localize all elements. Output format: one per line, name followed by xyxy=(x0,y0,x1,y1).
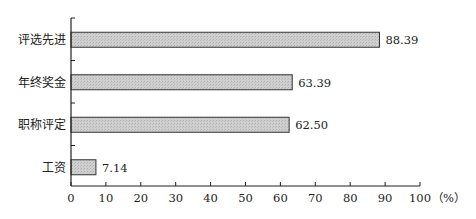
bar-item: 年终奖金63.39 xyxy=(18,75,331,90)
bar xyxy=(71,75,292,90)
x-tick-label: 50 xyxy=(238,191,253,205)
bar xyxy=(71,32,379,47)
x-tick-label: 90 xyxy=(378,191,393,205)
value-label: 88.39 xyxy=(385,33,418,47)
category-label: 评选先进 xyxy=(18,33,66,47)
bar xyxy=(71,117,289,132)
bar-item: 职称评定62.50 xyxy=(18,117,328,132)
x-tick-label: 40 xyxy=(203,191,218,205)
value-label: 62.50 xyxy=(295,118,328,132)
x-tick-label: 100 xyxy=(409,191,431,205)
value-label: 63.39 xyxy=(298,76,331,90)
x-unit-label: （%） xyxy=(432,191,465,205)
x-tick-label: 30 xyxy=(168,191,183,205)
bar-item: 工资7.14 xyxy=(42,160,128,175)
bars-group: 评选先进88.39年终奖金63.39职称评定62.50工资7.14 xyxy=(18,32,418,175)
x-tick-label: 10 xyxy=(99,191,114,205)
x-tick-label: 80 xyxy=(343,191,358,205)
category-label: 职称评定 xyxy=(18,117,66,132)
x-tick-label: 20 xyxy=(133,191,148,205)
category-label: 年终奖金 xyxy=(18,75,66,90)
bar xyxy=(71,160,96,175)
value-label: 7.14 xyxy=(102,161,128,175)
horizontal-bar-chart: 评选先进88.39年终奖金63.39职称评定62.50工资7.14 010203… xyxy=(0,0,476,219)
x-tick-label: 60 xyxy=(273,191,288,205)
bar-item: 评选先进88.39 xyxy=(18,32,418,47)
x-tick-label: 70 xyxy=(308,191,323,205)
x-tick-label: 0 xyxy=(67,191,74,205)
category-label: 工资 xyxy=(42,161,66,175)
x-axis: 0102030405060708090100（%） xyxy=(67,182,465,205)
